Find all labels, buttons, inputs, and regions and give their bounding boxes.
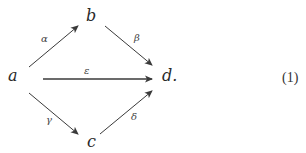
equation-number: (1): [282, 71, 298, 85]
arrow-alpha: [29, 26, 78, 67]
label-alpha: α: [41, 34, 48, 44]
arrow-gamma: [29, 93, 78, 134]
node-c: c: [87, 134, 96, 150]
arrow-delta: [100, 91, 152, 134]
label-beta: β: [134, 33, 140, 43]
label-gamma: γ: [46, 115, 52, 125]
commutative-diagram: a b c d. α β ε γ δ (1): [0, 0, 306, 153]
arrows-layer: [0, 0, 306, 153]
label-epsilon: ε: [84, 66, 89, 76]
node-a: a: [8, 68, 18, 84]
label-delta: δ: [131, 112, 137, 122]
node-d: d.: [162, 68, 177, 84]
node-b: b: [86, 8, 96, 24]
arrow-beta: [105, 26, 152, 65]
